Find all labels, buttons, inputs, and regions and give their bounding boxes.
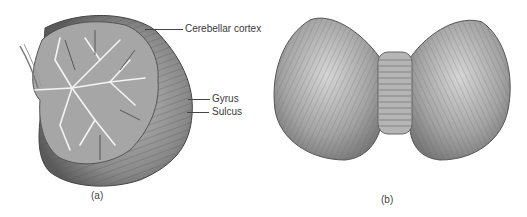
caption-panel-a: (a) [91, 190, 103, 201]
leader-line-gyrus [188, 99, 210, 100]
caption-panel-b: (b) [381, 194, 393, 205]
cerebellum-posterior-view [270, 0, 527, 217]
label-sulcus: Sulcus [212, 107, 242, 117]
leader-line-sulcus [187, 112, 209, 113]
panel-b-illustration [270, 0, 527, 217]
label-gyrus: Gyrus [212, 94, 239, 104]
label-cerebellar-cortex: Cerebellar cortex [185, 24, 261, 34]
leader-line-cerebellar-cortex [145, 29, 183, 30]
